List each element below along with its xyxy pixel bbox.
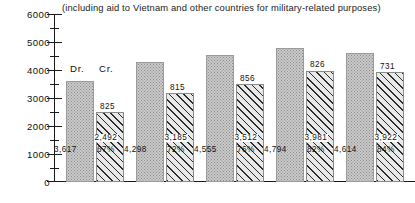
y-tick-4000	[47, 70, 62, 71]
bar-chart: (including aid to Vietnam and other coun…	[0, 0, 415, 203]
y-tick-5500	[50, 28, 59, 29]
bar-cr-4[interactable]	[306, 71, 334, 183]
bar-top-label-3: 856	[240, 75, 255, 83]
bar-dr-value-label-1: 3,617	[54, 146, 77, 154]
y-tick-1000	[47, 154, 62, 155]
bar-group-5: 731 3,922 4,614 84%	[346, 14, 408, 182]
bar-dr-5[interactable]	[346, 53, 374, 182]
y-tick-1500	[50, 140, 59, 141]
bar-dr-1[interactable]	[66, 81, 94, 182]
y-tick-6000	[47, 14, 62, 15]
bar-top-label-5: 731	[380, 63, 395, 71]
bar-top-label-2: 815	[170, 84, 185, 92]
bar-cr-pct-label-3: 76%	[237, 146, 255, 154]
bar-cr-pct-label-1: 67%	[97, 146, 115, 154]
y-tick-label-0: 0	[44, 177, 50, 188]
y-tick-3000	[47, 98, 62, 99]
bar-dr-4[interactable]	[276, 48, 304, 182]
bar-dr-value-label-2: 4,298	[124, 146, 147, 154]
bar-cr-5[interactable]	[376, 72, 404, 182]
bar-cr-value-label-2: 3,185	[164, 134, 188, 142]
y-tick-2500	[50, 112, 59, 113]
chart-subtitle: (including aid to Vietnam and other coun…	[62, 2, 381, 13]
bar-cr-value-label-1: 2,492	[94, 134, 118, 142]
bar-group-3: 856 3,512 4,555 76%	[206, 14, 268, 182]
bar-cr-pct-label-2: 72%	[167, 146, 185, 154]
y-tick-0	[47, 181, 62, 182]
y-tick-5000	[47, 42, 62, 43]
bar-cr-value-label-4: 3,981	[304, 134, 328, 142]
bar-cr-pct-label-4: 82%	[307, 146, 325, 154]
y-tick-500	[50, 168, 59, 169]
bar-dr-3[interactable]	[206, 55, 234, 183]
bar-dr-value-label-5: 4,614	[334, 146, 357, 154]
bar-cr-value-label-5: 3,922	[374, 134, 398, 142]
y-axis-labels: 6000 5000 4000 3000 2000 1000 0	[0, 14, 50, 182]
bar-dr-value-label-3: 4,555	[194, 146, 217, 154]
plot-area: Dr. Cr. 825 2,492 3,617 67% 815 3,185 4,…	[54, 14, 415, 182]
y-tick-3500	[50, 84, 59, 85]
bar-group-2: 815 3,185 4,298 72%	[136, 14, 198, 182]
bar-cr-value-label-3: 3,512	[234, 134, 258, 142]
bar-top-label-1: 825	[100, 103, 115, 111]
bar-dr-value-label-4: 4,794	[264, 146, 287, 154]
bar-group-1: 825 2,492 3,617 67%	[66, 14, 128, 182]
bar-top-label-4: 826	[310, 61, 325, 69]
y-tick-4500	[50, 56, 59, 57]
bar-dr-2[interactable]	[136, 62, 164, 182]
bar-group-4: 826 3,981 4,794 82%	[276, 14, 338, 182]
y-tick-2000	[47, 126, 62, 127]
bar-cr-pct-label-5: 84%	[377, 146, 395, 154]
